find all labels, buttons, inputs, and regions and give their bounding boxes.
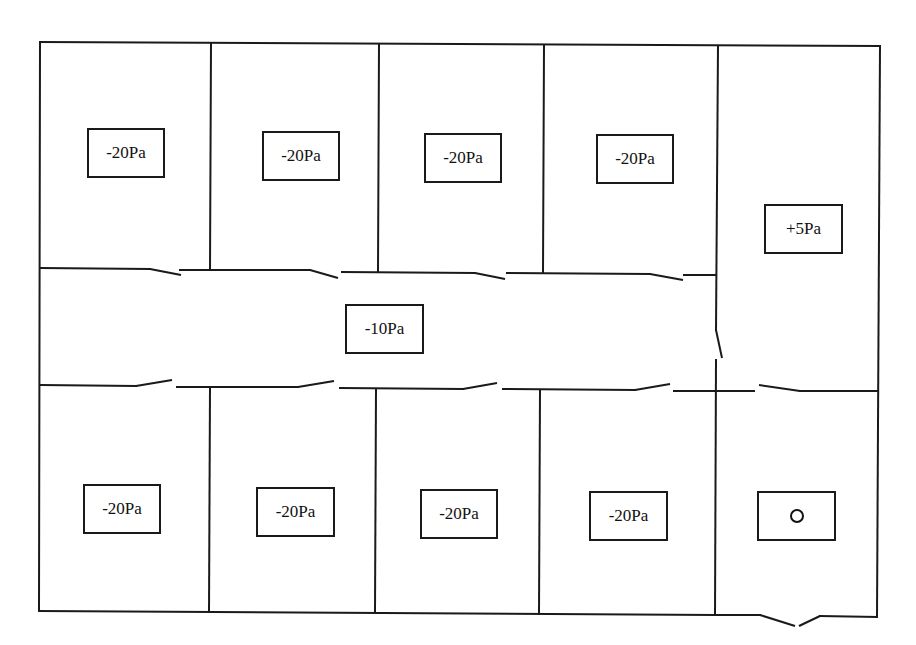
partition-top-3 — [543, 45, 544, 273]
pressure-value: -20Pa — [609, 506, 649, 526]
zero-pressure-circle-icon — [790, 509, 804, 523]
corridor-top-wall-1 — [41, 268, 150, 269]
door-bottom-4 — [635, 384, 670, 390]
partition-bottom-1 — [209, 387, 210, 612]
pressure-value: -20Pa — [281, 146, 321, 166]
partition-bottom-3 — [539, 390, 540, 614]
pressure-value: -20Pa — [443, 148, 483, 168]
partition-top-1 — [210, 43, 211, 270]
partition-top-2 — [378, 44, 379, 272]
door-bottom-1 — [136, 380, 172, 386]
partition-bottom-2 — [375, 389, 376, 613]
outer-wall-bottom-right — [820, 616, 877, 617]
door-bottom-2 — [298, 381, 334, 387]
pressure-value: -20Pa — [106, 143, 146, 163]
entrance-door-left-leaf — [760, 615, 795, 626]
door-right-room-bottom — [759, 385, 800, 391]
door-top-3 — [475, 273, 505, 279]
corridor-top-wall-4 — [507, 273, 650, 274]
door-top-4 — [650, 274, 683, 280]
pressure-value: -20Pa — [276, 502, 316, 522]
door-bottom-3 — [463, 383, 497, 389]
pressure-value: -20Pa — [439, 504, 479, 524]
pressure-value: -20Pa — [102, 499, 142, 519]
pressure-label-bottom-3: -20Pa — [420, 489, 498, 539]
partition-right-room-upper — [716, 46, 718, 330]
pressure-value: +5Pa — [786, 219, 821, 239]
door-top-2 — [310, 270, 338, 278]
pressure-label-top-3: -20Pa — [424, 133, 502, 183]
pressure-label-top-4: -20Pa — [596, 134, 674, 184]
pressure-label-right-room: +5Pa — [764, 204, 843, 254]
floor-plan-drawing — [0, 0, 916, 645]
corridor-top-wall-3 — [342, 272, 475, 273]
corridor-bottom-wall-3 — [340, 388, 463, 389]
pressure-value: -20Pa — [615, 149, 655, 169]
pressure-label-top-2: -20Pa — [262, 131, 340, 181]
pressure-label-bottom-4: -20Pa — [589, 491, 668, 541]
pressure-label-corridor: -10Pa — [345, 304, 424, 354]
corridor-bottom-wall-1 — [41, 385, 136, 386]
pressure-value: -10Pa — [365, 319, 405, 339]
pressure-label-entrance — [757, 491, 836, 541]
pressure-label-bottom-1: -20Pa — [83, 484, 161, 534]
door-right-room — [716, 330, 722, 358]
outer-wall-right — [877, 46, 880, 617]
corridor-bottom-wall-4 — [503, 389, 635, 390]
door-top-1 — [150, 269, 181, 275]
partition-right-room-lower — [715, 360, 716, 615]
entrance-door-right-leaf — [799, 616, 820, 626]
outer-wall-top — [40, 42, 880, 46]
pressure-label-bottom-2: -20Pa — [256, 487, 335, 537]
outer-wall-left — [39, 42, 40, 611]
outer-wall-bottom-left — [39, 611, 715, 615]
pressure-label-top-1: -20Pa — [87, 128, 165, 178]
